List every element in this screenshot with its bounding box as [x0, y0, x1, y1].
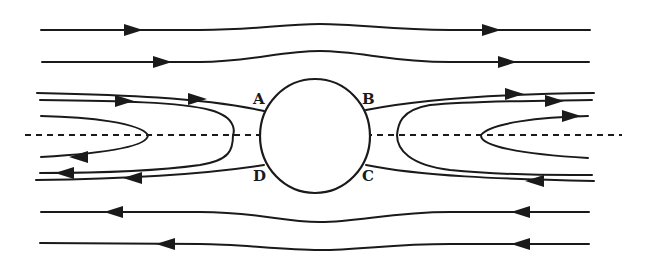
streamline-left-recirc-outer — [40, 100, 234, 173]
arrow-left-icon — [511, 206, 530, 218]
arrow-left-icon — [55, 167, 74, 179]
arrow-left-icon — [69, 151, 88, 163]
arrow-left-icon — [156, 238, 175, 250]
arrow-left-icon — [511, 238, 530, 250]
streamline-left-recirc-inner — [41, 116, 148, 157]
streamline-outer-top-1 — [41, 24, 590, 30]
point-label-c: C — [362, 167, 374, 185]
point-label-d: D — [253, 167, 266, 185]
streamline-diagram: A B C D — [0, 0, 645, 268]
streamline-right-recirc-inner — [481, 116, 588, 158]
streamline-outer-bottom-2 — [40, 243, 589, 250]
arrow-right-icon — [498, 56, 517, 68]
streamline-outer-bottom-1 — [41, 212, 589, 222]
arrow-right-icon — [188, 93, 207, 105]
arrow-right-icon — [562, 110, 581, 122]
arrow-left-icon — [104, 206, 123, 218]
arrow-right-icon — [124, 24, 143, 36]
point-label-a: A — [252, 90, 265, 108]
arrow-right-icon — [545, 95, 564, 107]
sphere-body — [260, 79, 370, 193]
arrow-right-icon — [482, 24, 501, 36]
arrow-right-icon — [505, 88, 524, 100]
arrow-right-icon — [153, 56, 172, 68]
arrow-left-icon — [525, 175, 544, 187]
point-label-b: B — [362, 90, 375, 108]
arrow-left-icon — [123, 172, 142, 184]
